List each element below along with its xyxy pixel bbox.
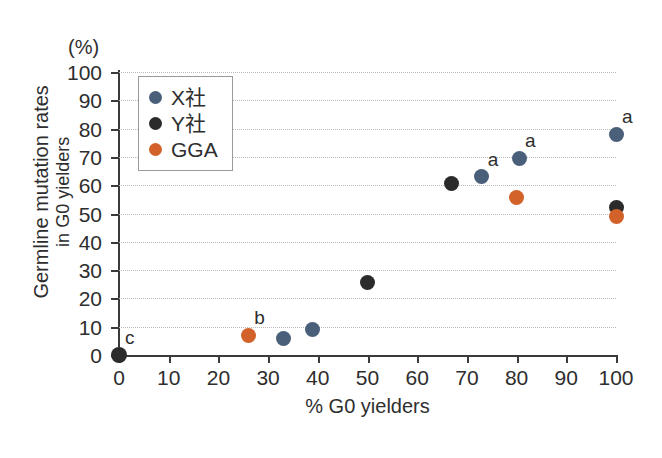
data-point-annotation: a [488, 150, 499, 169]
y-axis-tick [111, 129, 119, 131]
x-axis-tick-label: 100 [586, 367, 646, 388]
y-axis-tick-label: 80 [48, 119, 102, 140]
x-axis-tick [417, 355, 419, 363]
x-axis-tick [169, 355, 171, 363]
data-point [360, 275, 375, 290]
y-axis-tick [111, 72, 119, 74]
x-axis-title: % G0 yielders [119, 395, 616, 418]
y-axis-tick-label: 70 [48, 147, 102, 168]
data-point [241, 328, 256, 343]
legend-item-label: GGA [171, 139, 218, 160]
y-axis-tick-label: 50 [48, 204, 102, 225]
y-axis-tick [111, 185, 119, 187]
data-point-annotation: a [525, 131, 536, 150]
legend-item-label: X社 [171, 87, 206, 108]
y-axis-tick [111, 157, 119, 159]
data-point-annotation: c [125, 328, 135, 347]
data-point [512, 151, 527, 166]
data-point [305, 322, 320, 337]
gridline [119, 242, 616, 243]
gridline [119, 298, 616, 299]
x-axis-tick [517, 355, 519, 363]
data-point [609, 127, 624, 142]
data-point [474, 169, 489, 184]
gridline [119, 185, 616, 186]
legend-marker-icon [149, 117, 162, 130]
y-axis-tick [111, 100, 119, 102]
legend-item: Y社 [149, 110, 218, 136]
y-axis-tick [111, 242, 119, 244]
gridline [119, 72, 616, 73]
legend-item: X社 [149, 84, 218, 110]
data-point [444, 176, 459, 191]
legend-marker-icon [149, 91, 162, 104]
legend-item-label: Y社 [171, 113, 206, 134]
gridline [119, 270, 616, 271]
y-axis-tick-label: 60 [48, 175, 102, 196]
legend-marker-icon [149, 143, 162, 156]
x-axis-tick [218, 355, 220, 363]
x-axis-tick [368, 355, 370, 363]
y-axis-tick [111, 327, 119, 329]
gridline [119, 214, 616, 215]
x-axis-tick [318, 355, 320, 363]
y-axis-tick-label: 40 [48, 232, 102, 253]
y-axis-tick [111, 214, 119, 216]
y-axis-tick-label: 100 [48, 62, 102, 83]
data-point-annotation: a [622, 107, 633, 126]
data-point [276, 331, 291, 346]
y-axis-tick-label: 90 [48, 90, 102, 111]
data-point [509, 190, 524, 205]
legend: X社Y社GGA [138, 76, 233, 171]
data-point [111, 347, 127, 363]
y-axis-tick-label: 30 [48, 260, 102, 281]
y-axis-tick-label: 20 [48, 288, 102, 309]
gridline [119, 327, 616, 328]
legend-item: GGA [149, 136, 218, 162]
x-axis-tick [268, 355, 270, 363]
chart-page: (%) Germline mutation rates in G0 yielde… [0, 0, 662, 458]
y-axis-tick [111, 270, 119, 272]
data-point [609, 209, 624, 224]
y-axis-tick-label: 10 [48, 317, 102, 338]
y-axis-tick [111, 298, 119, 300]
x-axis-tick [467, 355, 469, 363]
x-axis-tick [566, 355, 568, 363]
x-axis-tick [616, 355, 618, 363]
y-axis-tick-label: 0 [48, 345, 102, 366]
data-point-annotation: b [254, 308, 265, 327]
